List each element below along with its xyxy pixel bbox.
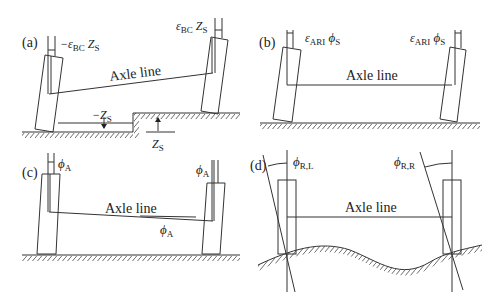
axle-line-label: Axle line: [345, 200, 397, 215]
panel-c: (c) Axle line ϕA ϕA ϕA: [22, 153, 240, 261]
right-road-angle-label: ϕR,R: [394, 154, 415, 171]
step-up-label: ZS: [152, 137, 164, 153]
right-ari-label: εARI ϕS: [410, 30, 445, 47]
axle-angle-label: ϕA: [160, 222, 174, 239]
panel-a: (a) Axle line −εBC ZS εBC ZS: [22, 18, 240, 153]
right-camber-label: εBC ZS: [176, 19, 207, 35]
panel-a-label: (a): [22, 35, 38, 51]
left-ari-label: εARI ϕS: [305, 30, 340, 47]
panel-c-label: (c): [22, 165, 38, 181]
left-road-angle-label: ϕR,L: [293, 154, 314, 171]
suspension-diagram-figure: (a) Axle line −εBC ZS εBC ZS: [0, 0, 501, 307]
panel-b-label: (b): [259, 35, 276, 51]
left-angle-label: ϕA: [58, 156, 72, 173]
left-camber-label: −εBC ZS: [60, 37, 100, 53]
panel-d: (d) Axle line ϕR,L ϕR,R: [250, 150, 482, 292]
panel-b: (b) Axle line εARI ϕS εARI ϕS: [259, 30, 480, 129]
axle-line-label: Axle line: [105, 201, 157, 216]
right-angle-label: ϕA: [196, 162, 210, 179]
axle-line-label: Axle line: [346, 68, 398, 83]
step-down-label: −ZS: [92, 108, 112, 124]
